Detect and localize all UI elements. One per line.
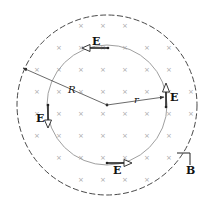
b-field-cross: × bbox=[144, 88, 150, 96]
b-field-cross: × bbox=[122, 110, 128, 118]
b-field-cross: × bbox=[122, 22, 128, 30]
b-field-cross: × bbox=[100, 22, 106, 30]
e-label-bottom: E bbox=[113, 164, 121, 177]
radius-r-label: r bbox=[134, 94, 140, 105]
b-field-cross: × bbox=[34, 88, 40, 96]
e-label-right: E bbox=[170, 91, 178, 104]
b-field-cross: × bbox=[122, 176, 128, 184]
e-vector-bottom: E bbox=[106, 160, 132, 178]
b-field-cross: × bbox=[144, 66, 150, 74]
b-field-cross: × bbox=[56, 110, 62, 118]
b-field-cross: × bbox=[100, 66, 106, 74]
e-vector-left: E bbox=[36, 104, 52, 128]
induced-field-diagram: ××××××××××××××××××××××××××××××××××××××××… bbox=[0, 0, 211, 203]
b-field-cross: × bbox=[34, 66, 40, 74]
b-field-cross: × bbox=[144, 44, 150, 52]
b-field-cross: × bbox=[188, 110, 194, 118]
b-field-cross: × bbox=[56, 88, 62, 96]
b-field-cross: × bbox=[78, 22, 84, 30]
b-field-cross: × bbox=[144, 110, 150, 118]
b-field-cross: × bbox=[100, 88, 106, 96]
b-field-cross: × bbox=[78, 110, 84, 118]
b-field-cross: × bbox=[122, 66, 128, 74]
b-field-cross: × bbox=[56, 44, 62, 52]
b-field-cross: × bbox=[144, 132, 150, 140]
radius-R-arrow bbox=[23, 68, 107, 105]
b-field-cross: × bbox=[34, 132, 40, 140]
radius-R-label: R bbox=[67, 84, 76, 95]
b-field-cross: × bbox=[188, 88, 194, 96]
b-field-cross: × bbox=[100, 154, 106, 162]
b-field-cross: × bbox=[166, 154, 172, 162]
b-field-cross: × bbox=[56, 154, 62, 162]
b-field-cross: × bbox=[100, 110, 106, 118]
b-field-indicator: B bbox=[177, 153, 195, 177]
b-field-cross: × bbox=[78, 176, 84, 184]
b-field-cross: × bbox=[144, 154, 150, 162]
e-label-top: E bbox=[92, 35, 100, 48]
e-label-left: E bbox=[36, 112, 44, 125]
b-field-cross: × bbox=[122, 132, 128, 140]
b-field-cross: × bbox=[78, 66, 84, 74]
b-field-cross: × bbox=[166, 66, 172, 74]
b-field-cross: × bbox=[100, 132, 106, 140]
b-field-label: B bbox=[186, 164, 195, 177]
b-field-cross: × bbox=[144, 176, 150, 184]
b-field-cross: × bbox=[166, 132, 172, 140]
b-field-cross: × bbox=[100, 176, 106, 184]
b-field-cross: × bbox=[78, 132, 84, 140]
b-field-cross: × bbox=[166, 44, 172, 52]
b-field-cross: × bbox=[122, 88, 128, 96]
